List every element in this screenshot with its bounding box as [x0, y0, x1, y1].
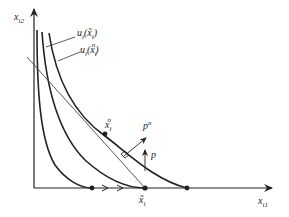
x-axis-label: xi1 [258, 196, 268, 209]
vector-label-p: p [151, 150, 156, 160]
leader-u-x-n [58, 52, 80, 61]
point-outer-intercept [185, 186, 190, 191]
price-vector-p-n [124, 138, 146, 156]
point-x-tilde [142, 185, 147, 190]
point-label-sub: i [143, 200, 145, 208]
point-label-sup: n [107, 116, 111, 124]
diagram-canvas: xi2 xi1 ui(x̃i) ui(xin) xin x̃i pn p [0, 0, 289, 217]
curve-label-prefix-sub: i [85, 50, 87, 58]
curve-label-prefix-sub: i [82, 33, 84, 41]
point-label-x-n: xin [105, 119, 111, 133]
vector-label-sup: n [148, 119, 152, 127]
vector-label-base: p [151, 149, 156, 160]
x-axis-label-sub: i1 [262, 201, 267, 209]
curve-label-u-x-tilde: ui(x̃i) [77, 28, 97, 41]
y-axis-label: xi2 [14, 12, 24, 25]
curve-label-arg-sub: i [92, 33, 94, 41]
budget-line [27, 57, 145, 188]
point-label-x-tilde: x̃i [139, 195, 145, 208]
diagram-svg [0, 0, 289, 217]
curve-label-u-x-n: ui(xin) [80, 44, 99, 58]
vector-label-p-n: pn [143, 120, 152, 131]
y-axis-label-sub: i2 [18, 17, 23, 25]
point-inner-intercept [90, 186, 95, 191]
curve-label-arg-sup: n [92, 41, 96, 49]
curve-label-arg-sub: i [95, 50, 97, 58]
point-label-sub: i [109, 125, 111, 133]
